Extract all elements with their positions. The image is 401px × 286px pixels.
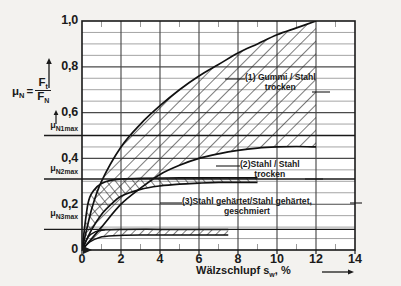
- x-tick-14: 14: [339, 253, 371, 266]
- y-axis-numerator: Ft: [35, 77, 51, 90]
- mu-n2max-label: μN2max: [6, 164, 78, 176]
- band-1-annotation-line2: trocken: [245, 83, 316, 93]
- x-tick-0: 0: [66, 253, 98, 266]
- y-axis-mu: μ: [12, 85, 19, 97]
- band-2-annotation-line2: trocken: [240, 170, 300, 180]
- x-tick-12: 12: [300, 253, 332, 266]
- y-tick-0.4: 0,4: [44, 152, 78, 165]
- mu-n1max-sub: N1max: [56, 125, 78, 132]
- band-1-annotation: (1) Gummi / Stahl trocken: [245, 73, 316, 92]
- mu-n3max-label: μN3max: [6, 209, 78, 221]
- y-axis-label: μN=FtFN: [12, 78, 51, 106]
- band-3-annotation-line2: geschmiert: [182, 207, 312, 217]
- y-tick-1.0: 1,0: [44, 14, 78, 27]
- x-axis-label-unit: , %: [275, 264, 291, 276]
- y-axis-mu-sub: N: [19, 91, 24, 100]
- x-axis-label-main: Wälzschlupf s: [196, 264, 269, 276]
- y-tick-0.6: 0,6: [44, 106, 78, 119]
- band-2-annotation: (2)Stahl / Stahl trocken: [240, 160, 300, 179]
- x-tick-2: 2: [105, 253, 137, 266]
- mu-n2max-sub: N2max: [56, 168, 78, 175]
- y-tick-0.8: 0,8: [44, 60, 78, 73]
- x-axis-arrow: [322, 269, 354, 274]
- y-axis-fraction: FtFN: [35, 77, 51, 105]
- x-axis-label: Wälzschlupf sw, %: [196, 265, 291, 278]
- mu-n1max-label: μN1max: [6, 121, 78, 133]
- mu-n3max-sub: N3max: [56, 213, 78, 220]
- y-axis-denominator: FN: [35, 90, 51, 104]
- band-3-annotation: (3)Stahl gehärtet/Stahl gehärtet, geschm…: [182, 197, 312, 216]
- chart-figure: 1,0 0,8 0,6 0,4 0,2 0 μN1max μN2max μN3m…: [0, 0, 401, 286]
- x-tick-4: 4: [144, 253, 176, 266]
- y-axis-equals: =: [26, 85, 33, 97]
